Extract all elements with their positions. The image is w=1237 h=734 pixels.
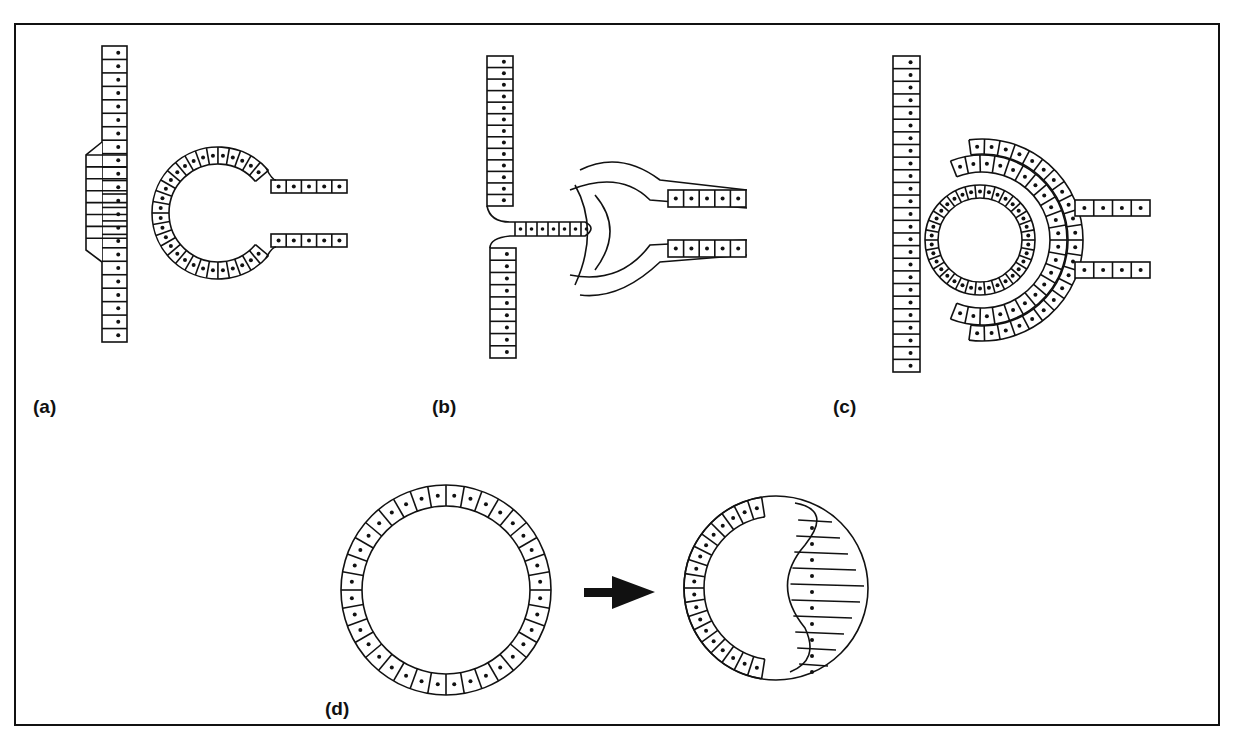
- panel-c-drawing: [893, 56, 1150, 372]
- panel-b-drawing: [487, 56, 747, 358]
- diagram-canvas: [0, 0, 1237, 734]
- panel-label-a: (a): [33, 396, 56, 418]
- panel-label-c: (c): [833, 396, 856, 418]
- panel-label-b: (b): [432, 396, 456, 418]
- panel-label-d: (d): [325, 698, 349, 720]
- panel-a-drawing: [86, 46, 347, 342]
- arrow-right-icon: [584, 576, 655, 609]
